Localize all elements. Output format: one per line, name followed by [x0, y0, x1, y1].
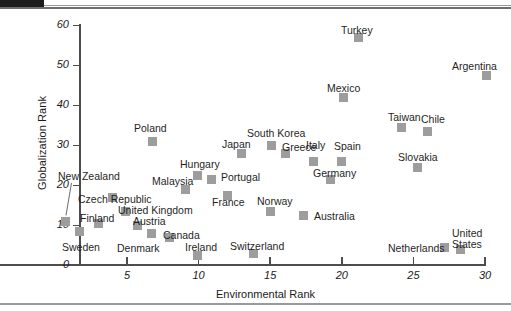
data-point-label: Switzerland — [230, 241, 284, 252]
data-point-marker — [75, 227, 84, 236]
data-point-label: Slovakia — [398, 152, 438, 163]
y-tick-mark — [73, 105, 80, 107]
data-point-label: Austria — [133, 216, 166, 227]
data-point-label: Mexico — [327, 83, 360, 94]
data-point-marker — [482, 71, 491, 80]
data-point-label: Chile — [421, 114, 445, 125]
data-point-label: Turkey — [341, 25, 373, 36]
x-tick-mark — [341, 257, 343, 264]
y-tick-mark — [73, 265, 80, 267]
data-point-label: Germany — [313, 168, 356, 179]
x-tick-label: 15 — [256, 269, 284, 281]
data-point-label: Japan — [222, 139, 251, 150]
y-tick-label: 50 — [46, 58, 69, 70]
data-point-label: Sweden — [62, 242, 100, 253]
x-tick-mark — [126, 257, 128, 264]
scatter-chart-figure: Globalization Rank Environmental Rank 60… — [0, 0, 511, 311]
x-tick-label: 10 — [185, 269, 213, 281]
data-point-label: Argentina — [452, 61, 497, 72]
data-point-label: Portugal — [221, 172, 260, 183]
x-tick-mark — [484, 257, 486, 264]
data-point-label: South Korea — [247, 128, 305, 139]
data-point-label: Finland — [80, 213, 114, 224]
data-point-label: New Zealand — [58, 171, 120, 182]
data-point-label: Spain — [334, 141, 361, 152]
data-point-label: UnitedStates — [452, 228, 482, 250]
x-tick-label: 20 — [328, 269, 356, 281]
data-point-marker — [148, 137, 157, 146]
data-point-marker — [193, 171, 202, 180]
data-point-label: Taiwan — [388, 112, 421, 123]
bottom-rule — [0, 303, 511, 305]
data-point-label: Norway — [257, 196, 293, 207]
page-corner-tab — [0, 0, 44, 7]
top-rule — [0, 7, 511, 9]
data-point-marker — [207, 175, 216, 184]
data-point-marker — [423, 127, 432, 136]
x-tick-label: 25 — [399, 269, 427, 281]
data-point-label: Netherlands — [388, 243, 445, 254]
data-point-label: Ireland — [185, 242, 217, 253]
x-axis-title: Environmental Rank — [216, 288, 315, 300]
data-point-label: France — [212, 197, 245, 208]
data-point-marker — [413, 163, 422, 172]
data-point-label: Hungary — [180, 159, 220, 170]
x-tick-mark — [413, 257, 415, 264]
y-tick-mark — [73, 185, 80, 187]
y-tick-mark — [73, 25, 80, 27]
data-point-marker — [299, 211, 308, 220]
top-hairline — [44, 5, 511, 6]
data-point-marker — [397, 123, 406, 132]
y-tick-mark — [73, 65, 80, 67]
x-tick-mark — [269, 257, 271, 264]
data-point-marker — [147, 229, 156, 238]
y-tick-mark — [73, 145, 80, 147]
data-point-label: Italy — [306, 140, 325, 151]
y-tick-label: 0 — [46, 258, 69, 270]
y-tick-label: 60 — [46, 18, 69, 30]
data-point-label: Poland — [134, 123, 167, 134]
data-point-label: Denmark — [117, 243, 160, 254]
data-point-marker — [266, 207, 275, 216]
y-tick-label: 30 — [46, 138, 69, 150]
y-tick-label: 40 — [46, 98, 69, 110]
x-tick-label: 30 — [471, 269, 499, 281]
x-tick-label: 5 — [113, 269, 141, 281]
data-point-marker — [61, 217, 70, 226]
data-point-marker — [267, 141, 276, 150]
data-point-label: Canada — [163, 230, 200, 241]
data-point-label: Australia — [314, 211, 355, 222]
data-point-marker — [309, 157, 318, 166]
data-point-marker — [337, 157, 346, 166]
data-point-label: Malaysia — [152, 176, 193, 187]
